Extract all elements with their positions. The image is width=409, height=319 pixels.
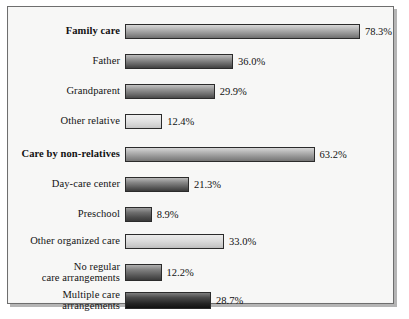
bar-category-label: Multiple carearrangements	[12, 289, 120, 312]
bar-value-label: 63.2%	[320, 149, 347, 160]
bar-row: Multiple carearrangements28.7%	[8, 285, 393, 315]
bar-value-label: 78.3%	[365, 26, 392, 37]
bar-container: 78.3%	[125, 20, 392, 42]
bar-category-label: Family care	[12, 25, 120, 37]
bar	[125, 84, 215, 99]
bar-row: Other relative12.4%	[8, 110, 393, 132]
bar-value-label: 36.0%	[238, 56, 265, 67]
bar-container: 28.7%	[125, 285, 243, 315]
bar-row: Preschool8.9%	[8, 203, 393, 225]
bar-category-label: Other relative	[12, 115, 120, 127]
bar-container: 29.9%	[125, 80, 247, 102]
bar-chart-plot-area: Family care78.3%Father36.0%Grandparent29…	[8, 7, 393, 303]
bar-category-label: Grandparent	[12, 85, 120, 97]
bar-category-label-line2: arrangements	[12, 300, 120, 312]
bar-value-label: 8.9%	[157, 209, 179, 220]
bar-value-label: 29.9%	[220, 86, 247, 97]
bar-row: Care by non-relatives63.2%	[8, 143, 393, 165]
bar-row: Father36.0%	[8, 50, 393, 72]
bar-container: 63.2%	[125, 143, 347, 165]
bar	[125, 207, 152, 222]
bar-row: Day-care center21.3%	[8, 173, 393, 195]
bar	[125, 54, 233, 69]
bar-row: Other organized care33.0%	[8, 230, 393, 252]
bar	[125, 264, 162, 281]
bar-category-label: Day-care center	[12, 178, 120, 190]
bar-container: 8.9%	[125, 203, 179, 225]
bar-container: 12.4%	[125, 110, 194, 132]
bar	[125, 114, 162, 129]
bar-category-label: Father	[12, 55, 120, 67]
bar	[125, 292, 211, 309]
bar-row: No regularcare arrangements12.2%	[8, 257, 393, 287]
bar-container: 21.3%	[125, 173, 221, 195]
bar-category-label-line2: care arrangements	[12, 272, 120, 284]
bar	[125, 234, 224, 249]
bar-value-label: 12.2%	[167, 267, 194, 278]
bar-value-label: 12.4%	[167, 116, 194, 127]
bar-value-label: 28.7%	[216, 295, 243, 306]
bar	[125, 147, 315, 162]
chart-frame: Family care78.3%Father36.0%Grandparent29…	[7, 6, 394, 304]
bar-category-label: No regularcare arrangements	[12, 261, 120, 284]
bar	[125, 24, 360, 39]
bar-category-label: Other organized care	[12, 235, 120, 247]
bar	[125, 177, 189, 192]
bar-container: 33.0%	[125, 230, 256, 252]
bar-container: 12.2%	[125, 257, 194, 287]
bar-container: 36.0%	[125, 50, 265, 72]
bar-category-label: Preschool	[12, 208, 120, 220]
bar-row: Family care78.3%	[8, 20, 393, 42]
bar-value-label: 33.0%	[229, 236, 256, 247]
bar-value-label: 21.3%	[194, 179, 221, 190]
bar-category-label: Care by non-relatives	[12, 148, 120, 160]
bar-row: Grandparent29.9%	[8, 80, 393, 102]
